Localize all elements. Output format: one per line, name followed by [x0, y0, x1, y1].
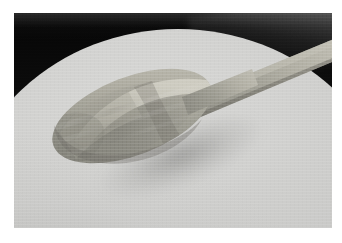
photograph [14, 13, 332, 228]
batter-description: Large pale cream-grey batter or mixture … [0, 0, 1, 1]
image-title: Wooden spoon resting on a bowl of pale b… [0, 0, 1, 1]
bowl-rim-description: Dark near-black mixing bowl rim curving … [0, 0, 1, 1]
spoon-bowl [19, 49, 228, 182]
shadow-description: Soft grey shadow cast by the spoon bowl … [0, 0, 1, 1]
wooden-spoon [14, 13, 332, 228]
spoon-description: Light wooden spoon with a wide oval bowl… [0, 0, 1, 1]
image-canvas: Wooden spoon resting on a bowl of pale b… [0, 0, 342, 243]
